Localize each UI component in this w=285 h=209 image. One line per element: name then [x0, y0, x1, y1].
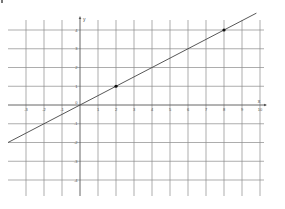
- line-series: [8, 13, 256, 142]
- origin-label: 0: [75, 100, 78, 105]
- x-tick-label: 3: [133, 107, 136, 112]
- x-tick-label: -1: [60, 107, 64, 112]
- x-tick-label: 6: [187, 107, 190, 112]
- y-axis-arrow-icon: [79, 16, 82, 19]
- x-axis-arrow-icon: [264, 104, 267, 107]
- y-axis-label: y: [83, 16, 86, 22]
- x-tick-label: -2: [42, 107, 46, 112]
- x-tick-label: 1: [97, 107, 100, 112]
- x-tick-label: 10: [258, 107, 263, 112]
- x-tick-label: 7: [205, 107, 208, 112]
- x-tick-label: 8: [223, 107, 226, 112]
- x-tick-label: 4: [151, 107, 154, 112]
- x-tick-label: -3: [24, 107, 28, 112]
- chart-plot: -3-2-112345678910-4-3-2-112340xy: [0, 0, 285, 209]
- data-series: [8, 13, 256, 142]
- x-tick-label: 5: [169, 107, 172, 112]
- axes: [8, 16, 267, 196]
- data-point: [222, 28, 225, 31]
- corner-mark: [1, 0, 3, 3]
- tick-labels: -3-2-112345678910-4-3-2-112340xy: [24, 16, 263, 183]
- x-tick-label: 2: [115, 107, 118, 112]
- grid-lines: [8, 20, 264, 196]
- x-tick-label: 9: [241, 107, 244, 112]
- data-point: [114, 85, 117, 88]
